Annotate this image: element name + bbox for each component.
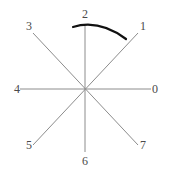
scan-artifact-strip bbox=[0, 168, 170, 176]
axis-label-5: 5 bbox=[26, 139, 32, 151]
axis-label-6: 6 bbox=[82, 155, 88, 167]
axis-label-2: 2 bbox=[82, 8, 88, 20]
rotation-arc-icon bbox=[73, 25, 126, 39]
radial-diagram-figure: 0 1 2 3 4 5 6 7 bbox=[0, 0, 170, 176]
axis-label-3: 3 bbox=[26, 20, 32, 32]
axis-label-4: 4 bbox=[14, 83, 20, 95]
axis-label-7: 7 bbox=[140, 139, 146, 151]
axis-label-0: 0 bbox=[152, 83, 158, 95]
axis-label-1: 1 bbox=[140, 20, 146, 32]
